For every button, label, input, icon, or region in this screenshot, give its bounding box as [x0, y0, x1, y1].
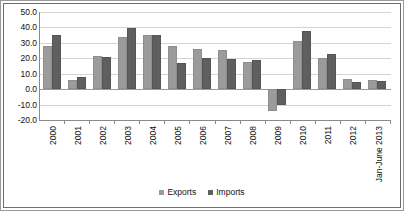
x-axis-category-label: 2012	[349, 126, 358, 145]
bar-exports-2007[interactable]	[218, 50, 227, 89]
x-axis-label-cell: 2000	[40, 126, 65, 184]
x-axis-category-label: 2011	[324, 126, 333, 144]
bar-imports-jan-june-2013[interactable]	[377, 81, 386, 89]
x-axis-category-label: 2009	[274, 126, 283, 145]
legend-swatch-icon	[159, 190, 164, 195]
bar-imports-2011[interactable]	[327, 54, 336, 89]
bar-group	[116, 12, 141, 120]
x-axis-label-cell: 2009	[266, 126, 291, 184]
x-axis-category-label: 2001	[73, 126, 82, 145]
x-axis-tick	[291, 120, 316, 124]
bar-imports-2008[interactable]	[252, 60, 261, 89]
bar-exports-2003[interactable]	[118, 37, 127, 90]
x-axis-label-cell: Jan-June 2013	[366, 126, 391, 184]
x-axis-category-label: 2008	[249, 126, 258, 145]
bar-group	[191, 12, 216, 120]
plot-area	[39, 12, 391, 120]
x-axis-tick	[65, 120, 90, 124]
bar-exports-2005[interactable]	[168, 46, 177, 89]
x-axis-tick	[341, 120, 366, 124]
y-axis-tick-label: 10.0	[1, 69, 37, 78]
bar-imports-2002[interactable]	[102, 57, 111, 89]
y-axis-tick-label: 40.0	[1, 23, 37, 32]
x-axis-tick	[190, 120, 215, 124]
bar-group	[141, 12, 166, 120]
x-axis-label-cell: 2002	[90, 126, 115, 184]
x-axis-tick	[165, 120, 190, 124]
bar-group	[366, 12, 391, 120]
x-axis-label-cell: 2008	[241, 126, 266, 184]
bar-exports-2009[interactable]	[268, 89, 277, 111]
x-axis-tick	[241, 120, 266, 124]
bar-group	[291, 12, 316, 120]
bar-exports-2010[interactable]	[293, 41, 302, 89]
bar-group	[166, 12, 191, 120]
bar-exports-2006[interactable]	[193, 49, 202, 89]
x-axis-category-label: 2007	[224, 126, 233, 145]
x-axis-category-label: 2006	[199, 126, 208, 145]
bar-imports-2004[interactable]	[152, 35, 161, 90]
y-axis-tick-label: -20.0	[1, 116, 37, 125]
bar-imports-2001[interactable]	[77, 77, 86, 89]
bar-group	[91, 12, 116, 120]
x-axis-label-cell: 2007	[216, 126, 241, 184]
bar-exports-2012[interactable]	[343, 79, 352, 89]
legend-item-imports[interactable]: Imports	[208, 188, 244, 197]
x-axis-category-label: Jan-June 2013	[374, 126, 383, 182]
x-axis-tick	[140, 120, 165, 124]
y-axis-tick-label: 30.0	[1, 38, 37, 47]
x-axis-tick	[316, 120, 341, 124]
x-axis-category-label: 2003	[123, 126, 132, 145]
bar-imports-2006[interactable]	[202, 58, 211, 89]
bar-imports-2012[interactable]	[352, 82, 361, 89]
bar-columns	[41, 12, 391, 120]
x-axis-category-label: 2000	[48, 126, 57, 145]
bar-exports-jan-june-2013[interactable]	[368, 80, 377, 89]
x-axis-label-cell: 2006	[190, 126, 215, 184]
bar-imports-2007[interactable]	[227, 59, 236, 89]
bar-imports-2003[interactable]	[127, 28, 136, 89]
bar-imports-2000[interactable]	[52, 35, 61, 89]
x-axis-tick	[115, 120, 140, 124]
x-axis-ticks	[40, 120, 391, 124]
chart-container: 50.040.030.020.010.00.0-10.0-20.0 200020…	[0, 0, 404, 211]
x-axis-label-cell: 2010	[291, 126, 316, 184]
bar-imports-2010[interactable]	[302, 31, 311, 90]
x-axis-label-cell: 2011	[316, 126, 341, 184]
y-axis-tick-label: 50.0	[1, 8, 37, 17]
bar-exports-2002[interactable]	[93, 56, 102, 90]
legend-item-exports[interactable]: Exports	[159, 188, 196, 197]
x-axis-tick	[266, 120, 291, 124]
bar-exports-2001[interactable]	[68, 80, 77, 89]
bar-imports-2005[interactable]	[177, 63, 186, 89]
legend-label: Imports	[216, 188, 244, 197]
bar-group	[341, 12, 366, 120]
x-axis-tick	[216, 120, 241, 124]
x-axis-label-cell: 2003	[115, 126, 140, 184]
y-axis-tick-label: 0.0	[1, 85, 37, 94]
bar-exports-2004[interactable]	[143, 35, 152, 89]
x-axis-category-label: 2002	[98, 126, 107, 145]
x-axis-tick	[366, 120, 391, 124]
x-axis-tick	[90, 120, 115, 124]
x-axis-tick	[40, 120, 65, 124]
x-axis-label-cell: 2012	[341, 126, 366, 184]
y-axis-tick-labels: 50.040.030.020.010.00.0-10.0-20.0	[0, 12, 37, 120]
legend-swatch-icon	[208, 190, 213, 195]
bar-exports-2000[interactable]	[43, 46, 52, 89]
bar-group	[216, 12, 241, 120]
chart-legend: ExportsImports	[0, 188, 404, 197]
bar-imports-2009[interactable]	[277, 89, 286, 105]
x-axis-label-cell: 2005	[165, 126, 190, 184]
bar-exports-2008[interactable]	[243, 62, 252, 90]
x-axis-category-label: 2005	[173, 126, 182, 145]
bar-group	[316, 12, 341, 120]
bar-group	[266, 12, 291, 120]
bar-group	[241, 12, 266, 120]
x-axis-category-label: 2004	[148, 126, 157, 145]
x-axis-label-cell: 2004	[140, 126, 165, 184]
x-axis-category-labels: 2000200120022003200420052006200720082009…	[40, 126, 391, 184]
bar-exports-2011[interactable]	[318, 58, 327, 89]
x-axis-label-cell: 2001	[65, 126, 90, 184]
y-axis-tick-label: 20.0	[1, 54, 37, 63]
